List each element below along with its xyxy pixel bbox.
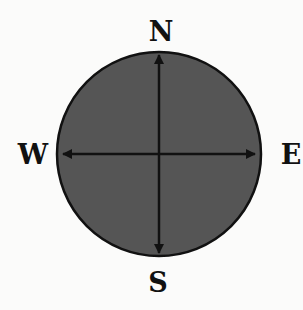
north-label: N bbox=[149, 16, 174, 47]
west-label: W bbox=[17, 139, 49, 170]
compass-diagram: N S W E bbox=[0, 0, 303, 310]
compass-svg: N S W E bbox=[0, 0, 303, 310]
east-label: E bbox=[281, 139, 302, 170]
south-label: S bbox=[148, 267, 168, 298]
